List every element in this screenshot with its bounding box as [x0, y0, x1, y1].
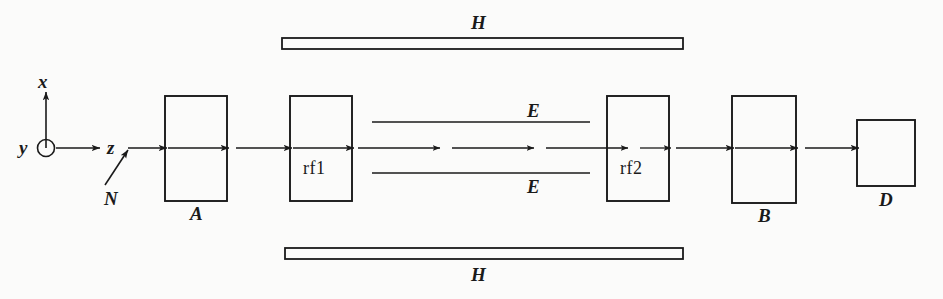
- component-boxes-group: [165, 96, 915, 203]
- field-label-h-top: H: [471, 13, 486, 32]
- diagram-vector-layer: [0, 0, 943, 299]
- component-label-b: B: [758, 206, 771, 225]
- coordinate-axes-group: [38, 92, 101, 157]
- axis-label-z: z: [107, 138, 114, 157]
- component-label-rf2: rf2: [620, 159, 643, 177]
- axis-label-y: y: [19, 138, 27, 157]
- h-plate-top-bar: [282, 38, 683, 49]
- field-label-e-top: E: [527, 101, 540, 120]
- component-label-a: A: [190, 204, 203, 223]
- field-label-h-bottom: H: [471, 265, 486, 284]
- component-label-d: D: [879, 190, 893, 209]
- beam-source-label-n: N: [104, 189, 118, 208]
- magnet-b-box: [732, 96, 796, 203]
- axis-label-x: x: [38, 72, 48, 91]
- h-plate-bottom-bar: [285, 248, 683, 259]
- field-label-e-bottom: E: [527, 177, 540, 196]
- detector-box: [857, 120, 915, 186]
- component-label-rf1: rf1: [303, 159, 326, 177]
- figure-canvas: x y z N A rf1 rf2 B D E E H H: [0, 0, 943, 299]
